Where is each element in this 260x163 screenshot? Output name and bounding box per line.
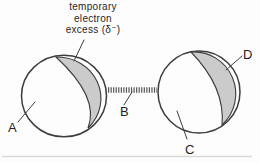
caption-temporary-electron-excess: temporary electron excess (δ⁻) [43,1,143,36]
caption-line-2: electron [43,13,143,25]
temporary-dipole-diagram: temporary electron excess (δ⁻) A B C D [0,0,260,163]
label-c: C [185,143,194,156]
caption-line-1: temporary [43,1,143,13]
label-b: B [120,105,129,118]
caption-line-3: excess (δ⁻) [43,24,143,36]
label-a: A [8,121,17,134]
label-d: D [243,48,252,61]
